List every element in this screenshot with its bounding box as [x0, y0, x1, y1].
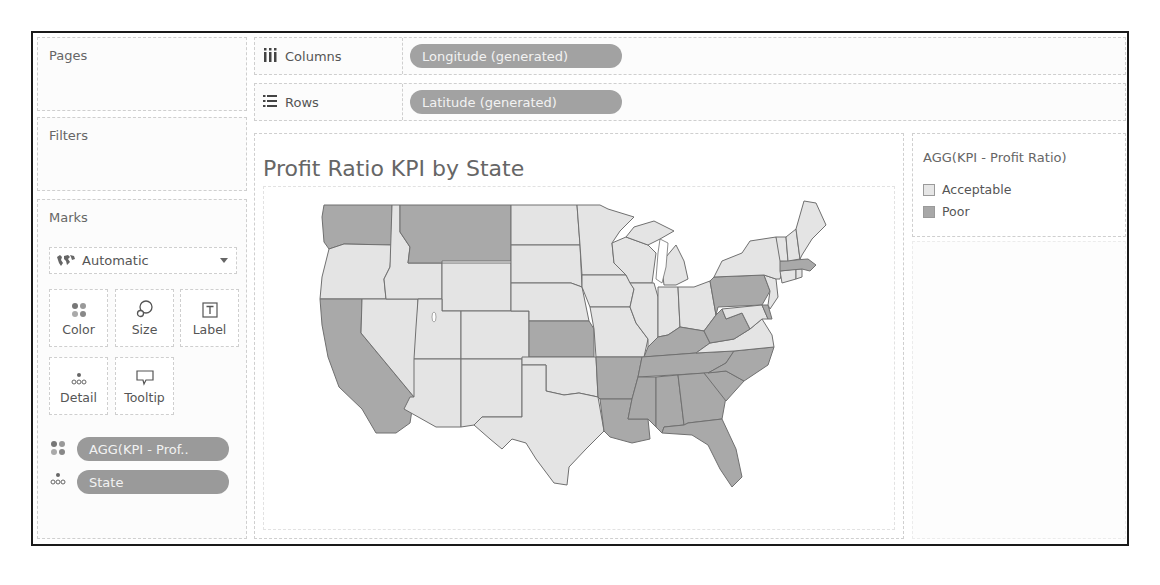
filters-title: Filters: [49, 128, 88, 143]
detail-dots-icon: [50, 358, 107, 386]
legend-title: AGG(KPI - Profit Ratio): [923, 150, 1067, 165]
mark-type-dropdown[interactable]: Automatic: [49, 247, 237, 274]
rows-shelf[interactable]: Rows Latitude (generated): [254, 83, 1126, 121]
detail-button[interactable]: Detail: [49, 357, 108, 415]
rows-shelf-label: Rows: [255, 84, 403, 120]
state-oregon[interactable]: [320, 244, 392, 299]
color-dots-icon: [50, 290, 107, 318]
label-label: Label: [181, 322, 238, 337]
rows-icon: [263, 94, 277, 110]
tooltip-button[interactable]: Tooltip: [115, 357, 174, 415]
great-salt-lake: [432, 312, 436, 322]
label-button[interactable]: Label: [180, 289, 239, 347]
tooltip-label: Tooltip: [116, 390, 173, 405]
map-icon: [56, 254, 76, 268]
state-kansas[interactable]: [529, 321, 594, 357]
mark-type-label: Automatic: [82, 253, 149, 268]
size-label: Size: [116, 322, 173, 337]
state-montana[interactable]: [400, 205, 511, 263]
pages-title: Pages: [49, 48, 87, 63]
color-button[interactable]: Color: [49, 289, 108, 347]
field-pill-state[interactable]: State: [77, 470, 229, 494]
legend-label-poor: Poor: [942, 204, 970, 219]
state-rhode-island[interactable]: [796, 269, 802, 279]
color-dots-icon: [50, 440, 66, 460]
size-button[interactable]: Size: [115, 289, 174, 347]
choropleth-map[interactable]: [264, 187, 894, 529]
columns-shelf-label: Columns: [255, 38, 403, 74]
columns-icon: [263, 48, 277, 65]
state-colorado[interactable]: [461, 311, 529, 359]
color-label: Color: [50, 322, 107, 337]
state-washington[interactable]: [322, 205, 392, 249]
text-label-icon: [181, 290, 238, 318]
state-iowa[interactable]: [582, 275, 634, 307]
longitude-pill[interactable]: Longitude (generated): [410, 44, 622, 68]
state-north-dakota[interactable]: [511, 205, 580, 245]
pages-card[interactable]: Pages: [37, 37, 247, 111]
legend-item-poor[interactable]: Poor: [923, 204, 970, 219]
legend-swatch-acceptable: [923, 184, 935, 196]
legend-item-acceptable[interactable]: Acceptable: [923, 182, 1011, 197]
state-new-york[interactable]: [714, 237, 784, 279]
detail-label: Detail: [50, 390, 107, 405]
tableau-worksheet: Pages Filters Marks Automatic: [31, 31, 1129, 546]
color-legend: AGG(KPI - Profit Ratio) Acceptable Poor: [912, 133, 1126, 237]
worksheet-view: Profit Ratio KPI by State: [254, 133, 904, 539]
field-pill-profit-ratio-kpi[interactable]: AGG(KPI - Prof..: [77, 437, 229, 461]
state-wyoming[interactable]: [442, 263, 511, 311]
latitude-pill[interactable]: Latitude (generated): [410, 90, 622, 114]
size-circles-icon: [116, 290, 173, 318]
chevron-down-icon: [220, 258, 228, 263]
filters-card[interactable]: Filters: [37, 117, 247, 191]
state-maine[interactable]: [796, 201, 826, 259]
view-title: Profit Ratio KPI by State: [263, 156, 524, 181]
legend-empty-area: [912, 241, 1126, 539]
legend-swatch-poor: [923, 206, 935, 218]
detail-dots-icon: [50, 471, 66, 490]
state-south-dakota[interactable]: [511, 245, 582, 287]
speech-bubble-icon: [116, 358, 173, 386]
marks-title: Marks: [49, 210, 88, 225]
columns-shelf[interactable]: Columns Longitude (generated): [254, 37, 1126, 75]
legend-label-acceptable: Acceptable: [942, 182, 1011, 197]
rows-label: Rows: [285, 95, 319, 110]
state-florida[interactable]: [662, 419, 742, 487]
us-state-map[interactable]: [263, 186, 895, 530]
columns-label: Columns: [285, 49, 342, 64]
marks-card: Marks Automatic Color: [37, 199, 247, 539]
